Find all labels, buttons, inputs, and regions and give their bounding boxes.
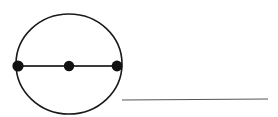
left-endpoint-dot [12,60,23,71]
diagram-canvas: Circle with horizontal diameter and thre… [0,0,278,117]
right-endpoint-dot [112,61,123,72]
geometry-figure [0,0,278,117]
center-dot [64,61,74,71]
